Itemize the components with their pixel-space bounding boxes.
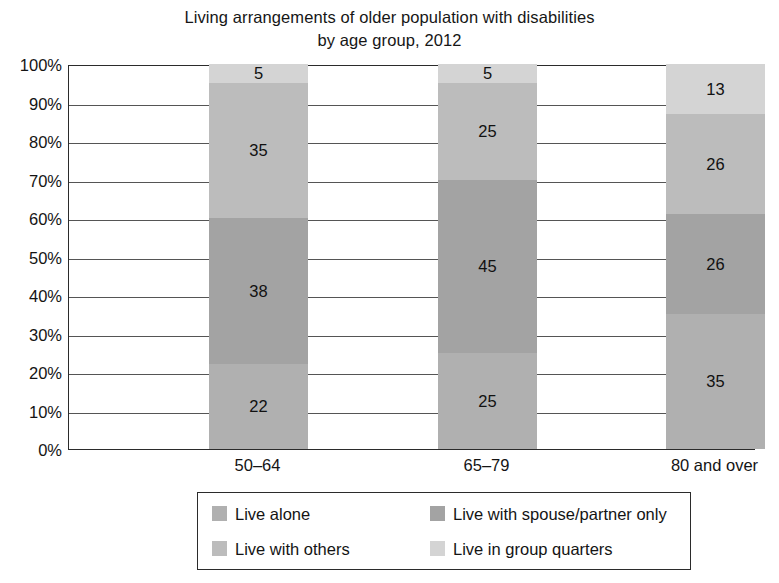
bar-segment-value: 38 [249, 283, 267, 300]
bar-segment-value: 45 [478, 258, 496, 275]
bar-segment[interactable]: 25 [438, 83, 537, 179]
y-axis: 0%10%20%30%40%50%60%70%80%90%100% [0, 65, 62, 450]
bar-segment[interactable]: 26 [666, 114, 765, 214]
y-axis-tick-label: 50% [0, 250, 62, 266]
y-axis-tick-label: 40% [0, 288, 62, 304]
bar-1[interactable]: 2238355 [209, 64, 308, 449]
legend-label: Live in group quarters [453, 540, 613, 558]
legend-label: Live with others [235, 540, 350, 558]
y-axis-tick-label: 20% [0, 365, 62, 381]
bar-segment-value: 35 [706, 373, 724, 390]
bar-segment-value: 25 [478, 123, 496, 140]
bar-3[interactable]: 35262613 [666, 64, 765, 449]
chart-title: Living arrangements of older population … [0, 6, 779, 52]
chart-title-line-2: by age group, 2012 [0, 29, 779, 52]
bar-segment-value: 35 [249, 142, 267, 159]
bar-segment-value: 5 [254, 65, 263, 82]
x-axis: 50–6465–7980 and over [68, 455, 755, 481]
legend-label: Live with spouse/partner only [453, 505, 667, 523]
legend-swatch-icon [430, 541, 445, 556]
bar-segment[interactable]: 5 [209, 64, 308, 83]
bar-segment[interactable]: 26 [666, 214, 765, 314]
y-axis-tick-label: 90% [0, 96, 62, 112]
bar-segment[interactable]: 5 [438, 64, 537, 83]
y-axis-tick-label: 30% [0, 327, 62, 343]
bar-segment-value: 22 [249, 398, 267, 415]
bar-segment[interactable]: 35 [666, 314, 765, 449]
bar-segment[interactable]: 38 [209, 218, 308, 364]
legend-item[interactable]: Live with others [212, 540, 430, 558]
x-axis-tick-label: 50–64 [163, 455, 352, 475]
legend-swatch-icon [212, 506, 227, 521]
y-axis-tick-label: 0% [0, 442, 62, 458]
bar-segment-value: 13 [706, 81, 724, 98]
legend-item[interactable]: Live alone [212, 505, 430, 523]
chart-title-line-1: Living arrangements of older population … [0, 6, 779, 29]
y-axis-tick-label: 10% [0, 404, 62, 420]
legend-item[interactable]: Live with spouse/partner only [430, 505, 690, 523]
legend-label: Live alone [235, 505, 310, 523]
y-axis-tick-label: 100% [0, 57, 62, 73]
bars-layer: 2238355254525535262613 [69, 66, 754, 449]
bar-segment[interactable]: 22 [209, 364, 308, 449]
y-axis-tick-label: 80% [0, 134, 62, 150]
bar-segment-value: 5 [483, 65, 492, 82]
legend-item[interactable]: Live in group quarters [430, 540, 690, 558]
x-axis-tick-label: 65–79 [392, 455, 581, 475]
bar-segment[interactable]: 25 [438, 353, 537, 449]
y-axis-tick-label: 60% [0, 211, 62, 227]
plot-area: 2238355254525535262613 [68, 65, 755, 450]
legend-swatch-icon [430, 506, 445, 521]
bar-segment[interactable]: 35 [209, 83, 308, 218]
legend: Live aloneLive with spouse/partner onlyL… [197, 492, 691, 570]
y-axis-tick-label: 70% [0, 173, 62, 189]
bar-segment-value: 25 [478, 393, 496, 410]
x-axis-tick-label: 80 and over [620, 455, 779, 475]
bar-segment-value: 26 [706, 256, 724, 273]
bar-segment[interactable]: 45 [438, 180, 537, 353]
bar-2[interactable]: 2545255 [438, 64, 537, 449]
bar-segment-value: 26 [706, 156, 724, 173]
legend-swatch-icon [212, 541, 227, 556]
bar-segment[interactable]: 13 [666, 64, 765, 114]
